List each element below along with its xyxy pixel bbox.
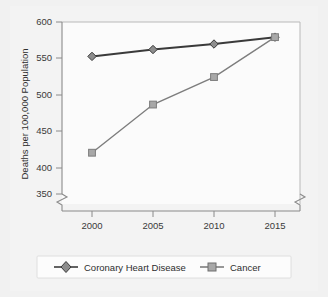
chart-legend: Coronary Heart Disease Cancer [37,256,291,278]
square-marker-icon [208,263,216,271]
chart-figure: 600 550 500 450 400 350 Deaths per 100,0… [0,0,328,297]
y-tick-label-400: 400 [36,162,52,173]
chart-card: 600 550 500 450 400 350 Deaths per 100,0… [10,6,318,291]
line-chart-svg: 600 550 500 450 400 350 Deaths per 100,0… [10,6,318,291]
data-point-marker[interactable] [272,34,279,41]
y-tick-label-450: 450 [36,125,52,136]
plot-panel-background [62,22,300,204]
y-axis-title: Deaths per 100,000 Population [19,49,30,180]
plot-area: 600 550 500 450 400 350 Deaths per 100,0… [10,6,318,291]
legend-item-cancer[interactable]: Cancer [200,262,261,273]
y-tick-label-350: 350 [36,188,52,199]
data-point-marker[interactable] [211,74,218,81]
x-tick-label-2000: 2000 [81,220,102,231]
y-tick-label-550: 550 [36,52,52,63]
x-tick-label-2010: 2010 [203,220,224,231]
legend-label-cancer: Cancer [230,262,261,273]
x-tick-label-2005: 2005 [142,220,163,231]
y-tick-label-600: 600 [36,16,52,27]
data-point-marker[interactable] [89,149,96,156]
y-tick-marks [56,22,62,194]
x-tick-marks [92,211,275,217]
x-tick-label-2015: 2015 [264,220,285,231]
data-point-marker[interactable] [150,101,157,108]
legend-label-chd: Coronary Heart Disease [84,262,186,273]
y-tick-label-500: 500 [36,89,52,100]
